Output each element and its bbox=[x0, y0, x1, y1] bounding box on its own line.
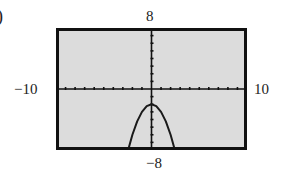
xmax-label: 10 bbox=[254, 82, 269, 97]
plot-svg bbox=[56, 28, 247, 150]
ymin-label: −8 bbox=[146, 156, 162, 171]
xmin-label: −10 bbox=[14, 82, 37, 97]
subfigure-label-fragment: ) bbox=[0, 6, 3, 27]
graph-window bbox=[56, 28, 247, 150]
ymax-label: 8 bbox=[146, 9, 154, 24]
